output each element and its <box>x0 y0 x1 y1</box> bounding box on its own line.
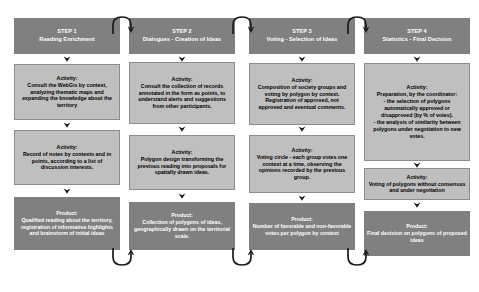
activity-label: Activity: <box>172 76 193 83</box>
step-column-4: STEP 4 Statistics - Final Decision Activ… <box>364 0 470 292</box>
step-2-title: Dialogues - Creation of Ideas <box>143 36 222 44</box>
chevron-down-arrow-icon <box>178 125 187 134</box>
activity-label: Activity: <box>407 84 428 91</box>
activity-label: Activity: <box>57 75 78 82</box>
step-2-activity-1: Activity: Consult the collection of reco… <box>129 62 235 124</box>
activity-text: Voting circle - each group votes one con… <box>253 154 351 182</box>
activity-text: Preparation, by the coordinator: - the s… <box>368 91 466 139</box>
product-label: Product: <box>291 216 313 223</box>
step-2-header: STEP 2 Dialogues - Creation of Ideas <box>129 18 235 54</box>
chevron-down-arrow-icon <box>63 55 72 64</box>
step-3-product: Product: Number of favorable and non-fav… <box>249 203 355 250</box>
product-text: Collection of polygons of ideas, geograp… <box>132 219 232 240</box>
chevron-down-arrow-icon <box>63 187 72 196</box>
product-text: Final decision on polygons of proposed i… <box>367 230 467 244</box>
activity-text: Consult the WebGis by context, analyzing… <box>18 82 116 110</box>
chevron-down-arrow-icon <box>298 194 307 203</box>
activity-text: Composition of society groups and voting… <box>253 84 351 112</box>
step-4-header: STEP 4 Statistics - Final Decision <box>364 18 470 54</box>
step-column-3: STEP 3 Voting - Selection of Ideas Activ… <box>249 0 355 292</box>
step-4-product: Product: Final decision on polygons of p… <box>364 211 470 256</box>
step-3-title: Voting - Selection of Ideas <box>267 36 338 44</box>
product-label: Product: <box>171 212 193 219</box>
step-1-activity-1: Activity: Consult the WebGis by context,… <box>14 64 120 120</box>
activity-text: Consult the collection of records annota… <box>133 83 231 111</box>
step-1-label: STEP 1 <box>57 28 76 36</box>
chevron-down-arrow-icon <box>178 192 187 201</box>
activity-text: Polygon design transforming the previous… <box>133 156 231 177</box>
chevron-down-arrow-icon <box>413 201 422 210</box>
step-2-product: Product: Collection of polygons of ideas… <box>129 202 235 250</box>
product-text: Qualified reading about the territory, r… <box>17 217 117 238</box>
chevron-down-arrow-icon <box>298 125 307 134</box>
step-1-title: Reading Enrichment <box>39 36 94 44</box>
step-4-label: STEP 4 <box>407 28 426 36</box>
step-4-title: Statistics - Final Decision <box>382 36 451 44</box>
step-2-activity-2: Activity: Polygon design transforming th… <box>129 135 235 190</box>
activity-label: Activity: <box>407 174 428 181</box>
activity-label: Activity: <box>292 77 313 84</box>
step-column-2: STEP 2 Dialogues - Creation of Ideas Act… <box>129 0 235 292</box>
step-4-activity-2: Activity: Voting of polygons without con… <box>364 168 470 200</box>
activity-label: Activity: <box>172 149 193 156</box>
step-column-1: STEP 1 Reading Enrichment Activity: Cons… <box>14 0 120 292</box>
activity-text: Voting of polygons without consensus and… <box>368 181 466 195</box>
product-label: Product: <box>406 223 428 230</box>
product-text: Number of favorable and non-favorable vo… <box>252 223 352 237</box>
product-label: Product: <box>56 210 78 217</box>
step-3-activity-2: Activity: Voting circle - each group vot… <box>249 135 355 193</box>
step-3-activity-1: Activity: Composition of society groups … <box>249 63 355 125</box>
step-3-label: STEP 3 <box>292 28 311 36</box>
step-1-activity-2: Activity: Record of notes by contexto an… <box>14 130 120 185</box>
process-flow-diagram: STEP 1 Reading Enrichment Activity: Cons… <box>0 0 479 292</box>
step-1-product: Product: Qualified reading about the ter… <box>14 197 120 250</box>
step-4-activity-1: Activity: Preparation, by the coordinato… <box>364 63 470 161</box>
activity-label: Activity: <box>292 147 313 154</box>
chevron-down-arrow-icon <box>63 121 72 130</box>
step-3-header: STEP 3 Voting - Selection of Ideas <box>249 18 355 54</box>
step-1-header: STEP 1 Reading Enrichment <box>14 18 120 54</box>
step-2-label: STEP 2 <box>172 28 191 36</box>
activity-text: Record of notes by contexto and in point… <box>18 151 116 172</box>
activity-label: Activity: <box>57 144 78 151</box>
